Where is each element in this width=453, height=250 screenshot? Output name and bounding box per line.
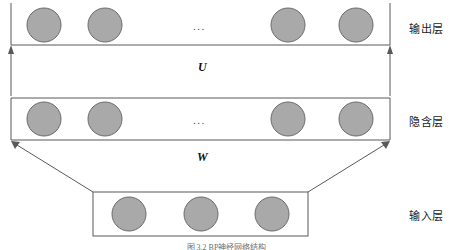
figure-bp-neural-network-structure: ... ... U W 输出层 隐含层 输入层 图 3.2 BP神经网络结构 bbox=[0, 0, 453, 250]
output-layer-ellipsis: ... bbox=[193, 20, 206, 32]
layer-label-hidden: 隐含层 bbox=[409, 113, 444, 129]
u-arrowhead-left bbox=[8, 45, 14, 54]
neural-network-diagram bbox=[0, 0, 453, 250]
hidden-node bbox=[271, 102, 305, 136]
weight-label-u: U bbox=[198, 60, 207, 75]
input-node bbox=[184, 197, 218, 231]
output-node bbox=[339, 8, 373, 42]
input-node bbox=[255, 197, 289, 231]
output-node bbox=[27, 8, 61, 42]
hidden-node bbox=[88, 102, 122, 136]
w-connection-region bbox=[11, 141, 390, 192]
input-layer-nodes bbox=[112, 197, 289, 231]
w-arrowhead-right bbox=[381, 141, 390, 149]
weight-label-w: W bbox=[197, 150, 208, 165]
layer-label-output: 输出层 bbox=[409, 20, 444, 36]
input-node bbox=[112, 197, 146, 231]
output-node bbox=[88, 8, 122, 42]
output-node bbox=[271, 8, 305, 42]
w-arrowhead-left bbox=[11, 141, 20, 149]
figure-caption: 图 3.2 BP神经网络结构 bbox=[0, 241, 453, 250]
hidden-layer-ellipsis: ... bbox=[193, 114, 206, 126]
hidden-node bbox=[339, 102, 373, 136]
layer-label-input: 输入层 bbox=[409, 207, 444, 223]
hidden-node bbox=[27, 102, 61, 136]
u-arrowhead-right bbox=[387, 45, 393, 54]
